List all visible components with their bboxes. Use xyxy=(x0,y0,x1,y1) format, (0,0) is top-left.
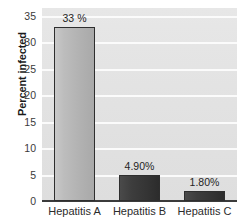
y-tick-label: 5 xyxy=(0,169,36,181)
y-tick-label: 20 xyxy=(0,89,36,101)
y-tick-label: 0 xyxy=(0,195,36,207)
y-tick-label: 10 xyxy=(0,142,36,154)
y-axis-tick-labels: 05101520253035 xyxy=(0,0,40,223)
bar-value-label: 1.80% xyxy=(190,176,220,188)
category-label: Hepatitis B xyxy=(113,205,166,217)
bar xyxy=(119,175,160,201)
y-tick-label: 25 xyxy=(0,63,36,75)
category-label: Hepatitis C xyxy=(178,205,232,217)
bar xyxy=(54,27,95,201)
y-tick-label: 15 xyxy=(0,116,36,128)
bar xyxy=(184,191,225,201)
bar-chart: Percent infected 05101520253035 33 %4.90… xyxy=(0,0,237,223)
bar-value-label: 4.90% xyxy=(125,160,155,172)
y-tick-label: 30 xyxy=(0,36,36,48)
bar-value-label: 33 % xyxy=(63,12,87,24)
y-tick-label: 35 xyxy=(0,10,36,22)
category-label: Hepatitis A xyxy=(48,205,101,217)
